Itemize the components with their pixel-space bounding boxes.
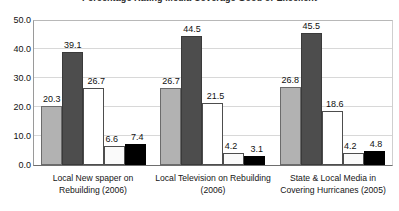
bar-slot: 4.2 — [223, 21, 244, 165]
bar[interactable] — [280, 87, 301, 165]
bar[interactable] — [364, 151, 385, 165]
y-axis-tick-label: 30.0 — [3, 74, 31, 83]
bar-chart: Percentage Rating Media Coverage Good or… — [0, 0, 399, 211]
plot-area: 20.339.126.76.67.426.744.521.54.23.126.8… — [33, 20, 393, 166]
bar-value-label: 4.2 — [344, 142, 357, 151]
bar-value-label: 4.2 — [225, 142, 238, 151]
bar-value-label: 26.8 — [282, 76, 300, 85]
bar-slot: 39.1 — [62, 21, 83, 165]
bar-group: 26.744.521.54.23.1 — [153, 21, 272, 165]
bar-value-label: 26.7 — [162, 77, 180, 86]
bar[interactable] — [41, 106, 62, 165]
bar[interactable] — [125, 144, 146, 165]
bar-slot: 4.8 — [364, 21, 385, 165]
category-label-line: Local Television on Rebuilding — [155, 173, 271, 185]
y-axis-tick-label: 0.0 — [3, 161, 31, 170]
bar-slot: 44.5 — [181, 21, 202, 165]
bar[interactable] — [181, 36, 202, 165]
bar-slot: 20.3 — [41, 21, 62, 165]
bar-value-label: 21.5 — [207, 92, 225, 101]
bar-slot: 45.5 — [301, 21, 322, 165]
bar-groups: 20.339.126.76.67.426.744.521.54.23.126.8… — [34, 21, 392, 165]
x-axis-category-label: Local New spaper onRebuilding (2006) — [33, 170, 153, 211]
y-axis: 50.040.030.020.010.00.0 — [0, 0, 31, 211]
bar-value-label: 7.4 — [131, 133, 144, 142]
bar-slot: 26.7 — [83, 21, 104, 165]
bar[interactable] — [301, 33, 322, 165]
x-axis-category-label: Local Television on Rebuilding(2006) — [153, 170, 273, 211]
bar[interactable] — [83, 88, 104, 165]
bar-value-label: 39.1 — [64, 41, 82, 50]
bar-slot: 21.5 — [202, 21, 223, 165]
bar[interactable] — [104, 146, 125, 165]
bar-slot: 26.8 — [280, 21, 301, 165]
y-axis-tick-label: 40.0 — [3, 45, 31, 54]
bar-slot: 7.4 — [125, 21, 146, 165]
chart-title: Percentage Rating Media Coverage Good or… — [0, 0, 399, 3]
category-label-line: State & Local Media in — [275, 173, 391, 185]
y-axis-tick-label: 50.0 — [3, 16, 31, 25]
bar-slot: 3.1 — [244, 21, 265, 165]
bar-value-label: 20.3 — [43, 95, 61, 104]
x-axis-category-labels: Local New spaper onRebuilding (2006)Loca… — [33, 170, 393, 211]
bar-slot: 26.7 — [160, 21, 181, 165]
y-axis-tick-label: 10.0 — [3, 132, 31, 141]
bar-value-label: 18.6 — [326, 100, 344, 109]
bar-value-label: 45.5 — [303, 22, 321, 31]
bar-slot: 4.2 — [343, 21, 364, 165]
bar-group: 26.845.518.64.24.8 — [273, 21, 392, 165]
bar-value-label: 4.8 — [370, 140, 383, 149]
category-label-line: Local New spaper on — [35, 173, 151, 185]
category-label-line: (2006) — [155, 185, 271, 197]
bar-value-label: 44.5 — [183, 25, 201, 34]
bar-slot: 18.6 — [322, 21, 343, 165]
category-label-line: Rebuilding (2006) — [35, 185, 151, 197]
y-axis-tick-label: 20.0 — [3, 103, 31, 112]
bar-value-label: 6.6 — [105, 135, 118, 144]
bar-value-label: 26.7 — [87, 77, 105, 86]
bar-group: 20.339.126.76.67.4 — [34, 21, 153, 165]
bar[interactable] — [322, 111, 343, 165]
bar-slot: 6.6 — [104, 21, 125, 165]
bar-value-label: 3.1 — [250, 145, 263, 154]
bar[interactable] — [62, 52, 83, 165]
bar[interactable] — [343, 153, 364, 165]
bar[interactable] — [223, 153, 244, 165]
bar[interactable] — [202, 103, 223, 165]
x-axis-category-label: State & Local Media inCovering Hurricane… — [273, 170, 393, 211]
bar[interactable] — [244, 156, 265, 165]
category-label-line: Covering Hurricanes (2005) — [275, 185, 391, 197]
bar[interactable] — [160, 88, 181, 165]
